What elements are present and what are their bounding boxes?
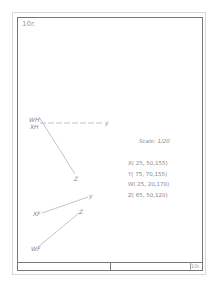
coord-z: Z( 65, 50,120) — [128, 190, 169, 201]
scale-note: Scale: 1/20 — [139, 138, 170, 144]
coord-y: Y( 75, 70,155) — [128, 169, 169, 180]
coord-w: W( 25, 20,170) — [128, 179, 169, 190]
label-xh: XH — [30, 123, 39, 130]
label-wh: WH — [29, 116, 39, 123]
title-block-number: 10r. — [191, 263, 201, 269]
title-block-divider — [110, 262, 111, 271]
label-xf: XF — [33, 210, 41, 217]
label-z-front: Z — [79, 208, 83, 215]
line-wh-z — [39, 117, 75, 174]
label-y-front: y — [89, 192, 93, 199]
label-y-top: y — [105, 119, 109, 126]
label-wf: WF — [31, 245, 40, 252]
projection-drawing — [0, 0, 221, 281]
coord-x: X( 25, 50,155) — [128, 158, 169, 169]
line-wf-z — [38, 213, 79, 247]
coordinate-list: X( 25, 50,155) Y( 75, 70,155) W( 25, 20,… — [128, 158, 169, 200]
label-z-top: Z — [74, 175, 78, 182]
